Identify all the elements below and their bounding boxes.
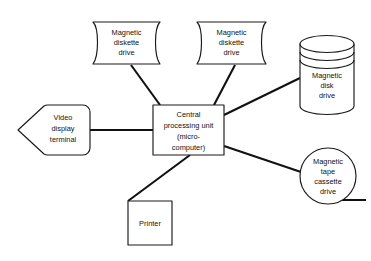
connector-diskette1-to-cpu bbox=[131, 65, 160, 105]
connector-disk-to-cpu bbox=[224, 78, 300, 115]
central-processing-unit-label-line1: Central bbox=[177, 110, 201, 119]
magnetic-disk-drive-label-line3: drive bbox=[319, 91, 335, 100]
diskette-drive-2-label-line1: Magnetic bbox=[217, 28, 247, 37]
node-central-processing-unit[interactable]: Central processing unit (micro- computer… bbox=[153, 105, 224, 155]
magnetic-disk-drive-label-line2: disk bbox=[320, 81, 333, 90]
video-display-terminal-label-line2: display bbox=[51, 124, 74, 133]
printer-label: Printer bbox=[139, 219, 161, 228]
connector-tape-to-cpu bbox=[224, 146, 301, 172]
node-magnetic-disk-drive[interactable]: Magnetic disk drive bbox=[300, 36, 354, 115]
diskette-drive-2-label-line3: drive bbox=[223, 48, 239, 57]
node-printer[interactable]: Printer bbox=[128, 201, 172, 245]
diskette-drive-1-label-line1: Magnetic bbox=[112, 28, 142, 37]
diskette-drive-1-label-line3: drive bbox=[118, 48, 134, 57]
magnetic-tape-cassette-drive-label-line3: cassette bbox=[314, 177, 342, 186]
video-display-terminal-label-line3: terminal bbox=[50, 135, 77, 144]
video-display-terminal-label-line1: Video bbox=[54, 113, 73, 122]
diskette-drive-2-label-line2: diskette bbox=[219, 38, 244, 47]
central-processing-unit-label-line2: processing unit bbox=[164, 121, 214, 130]
diskette-drive-1-label-line2: diskette bbox=[114, 38, 139, 47]
node-diskette-drive-1[interactable]: Magnetic diskette drive bbox=[93, 22, 160, 64]
system-configuration-diagram: Magnetic diskette drive Magnetic diskett… bbox=[0, 0, 371, 261]
central-processing-unit-label-line4: computer) bbox=[172, 143, 205, 152]
magnetic-tape-cassette-drive-label-line4: drive bbox=[320, 187, 336, 196]
node-video-display-terminal[interactable]: Video display terminal bbox=[18, 105, 90, 155]
central-processing-unit-label-line3: (micro- bbox=[177, 132, 201, 141]
magnetic-tape-cassette-drive-label-line1: Magnetic bbox=[313, 157, 343, 166]
magnetic-tape-cassette-drive-label-line2: tape bbox=[321, 167, 335, 176]
magnetic-disk-drive-top bbox=[300, 36, 354, 53]
diagram-canvas: Magnetic diskette drive Magnetic diskett… bbox=[0, 0, 371, 261]
magnetic-disk-drive-label-line1: Magnetic bbox=[312, 71, 342, 80]
connector-printer-to-cpu bbox=[128, 155, 190, 201]
node-magnetic-tape-cassette-drive[interactable]: Magnetic tape cassette drive bbox=[300, 148, 356, 204]
connector-diskette2-to-cpu bbox=[214, 65, 235, 105]
node-diskette-drive-2[interactable]: Magnetic diskette drive bbox=[197, 22, 266, 64]
